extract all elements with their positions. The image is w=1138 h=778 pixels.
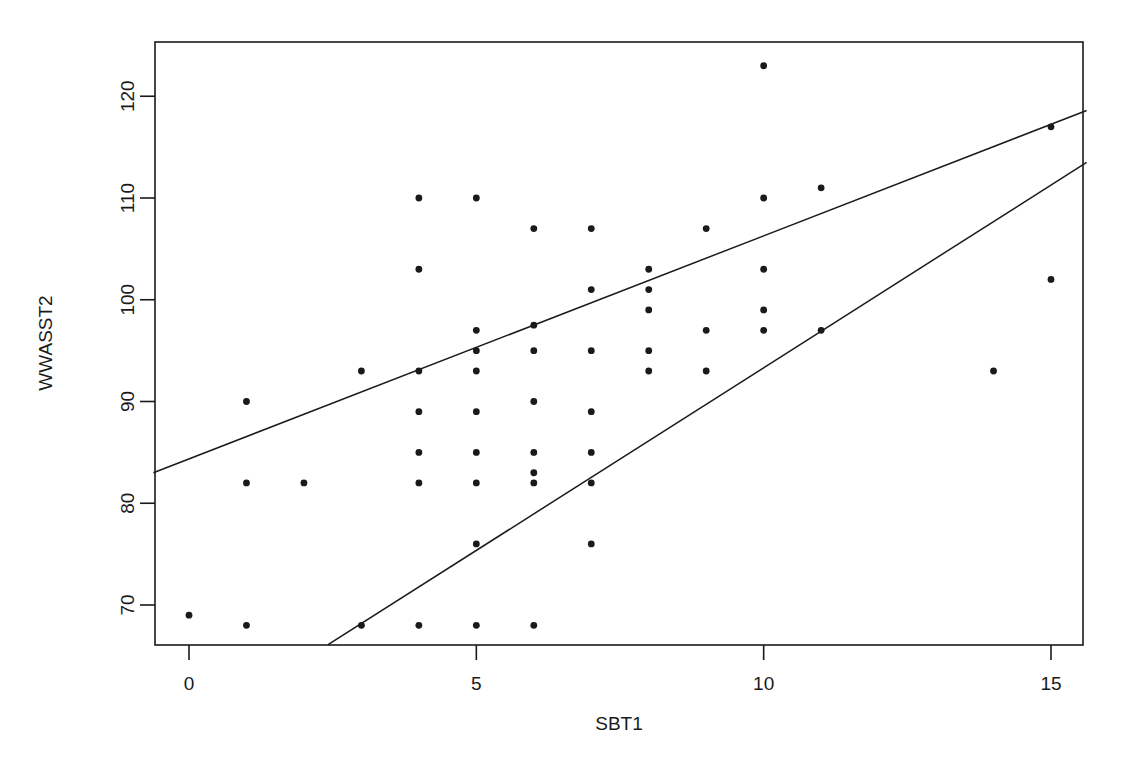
data-point: [415, 622, 422, 629]
data-point: [473, 368, 480, 375]
data-point: [588, 449, 595, 456]
data-point: [473, 408, 480, 415]
y-tick-label: 80: [117, 493, 138, 514]
data-point: [703, 327, 710, 334]
x-tick-label: 10: [753, 673, 774, 694]
data-point: [358, 368, 365, 375]
data-point: [243, 398, 250, 405]
data-point: [473, 480, 480, 487]
y-tick-label: 120: [117, 80, 138, 112]
data-point: [588, 541, 595, 548]
data-point: [530, 322, 537, 329]
data-point: [645, 266, 652, 273]
data-point: [1048, 123, 1055, 130]
data-point: [473, 622, 480, 629]
data-point: [473, 195, 480, 202]
data-point: [703, 368, 710, 375]
data-point: [760, 266, 767, 273]
data-point: [645, 368, 652, 375]
data-point: [1048, 276, 1055, 283]
data-point: [186, 612, 193, 619]
regression-lines: [153, 110, 1086, 644]
data-point: [473, 449, 480, 456]
data-point: [760, 62, 767, 69]
data-point: [473, 541, 480, 548]
data-point: [415, 266, 422, 273]
data-point: [645, 347, 652, 354]
data-point: [243, 622, 250, 629]
data-point: [530, 449, 537, 456]
data-point: [415, 480, 422, 487]
data-point: [588, 286, 595, 293]
x-tick-label: 0: [184, 673, 195, 694]
data-point: [645, 307, 652, 314]
data-points: [186, 62, 1055, 628]
data-point: [358, 622, 365, 629]
data-point: [588, 480, 595, 487]
data-point: [530, 225, 537, 232]
data-point: [473, 347, 480, 354]
plot-frame: [155, 42, 1083, 645]
x-tick-label: 5: [471, 673, 482, 694]
data-point: [415, 368, 422, 375]
data-point: [301, 480, 308, 487]
data-point: [588, 347, 595, 354]
data-point: [760, 327, 767, 334]
data-point: [530, 469, 537, 476]
x-tick-label: 15: [1040, 673, 1061, 694]
y-tick-label: 90: [117, 391, 138, 412]
data-point: [243, 480, 250, 487]
data-point: [530, 480, 537, 487]
data-point: [703, 225, 710, 232]
data-point: [760, 195, 767, 202]
x-axis-ticks: [189, 645, 1051, 660]
data-point: [530, 347, 537, 354]
scatter-plot-svg: 051015 708090100110120 SBT1 WWASST2: [0, 0, 1138, 778]
lower-regression-line: [328, 162, 1087, 644]
data-point: [415, 195, 422, 202]
data-point: [588, 408, 595, 415]
data-point: [818, 184, 825, 191]
data-point: [990, 368, 997, 375]
upper-regression-line: [153, 110, 1086, 472]
data-point: [415, 449, 422, 456]
y-tick-label: 110: [117, 183, 138, 213]
y-axis-ticks: [140, 96, 155, 605]
chart-canvas: 051015 708090100110120 SBT1 WWASST2: [0, 0, 1138, 778]
data-point: [415, 408, 422, 415]
data-point: [645, 286, 652, 293]
y-axis-title: WWASST2: [35, 295, 56, 390]
data-point: [760, 307, 767, 314]
y-tick-label: 70: [117, 594, 138, 615]
x-axis-title: SBT1: [595, 713, 643, 734]
y-axis-tick-labels: 708090100110120: [117, 80, 138, 615]
y-tick-label: 100: [117, 284, 138, 316]
data-point: [530, 622, 537, 629]
x-axis-tick-labels: 051015: [184, 673, 1062, 694]
data-point: [473, 327, 480, 334]
data-point: [818, 327, 825, 334]
data-point: [588, 225, 595, 232]
data-point: [530, 398, 537, 405]
